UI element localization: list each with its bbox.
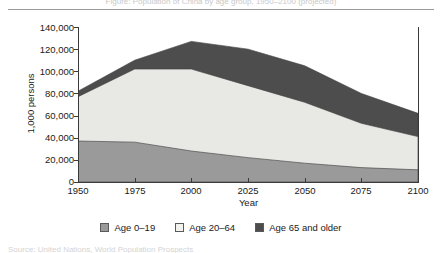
legend-label-age-65-plus: Age 65 and older <box>269 222 341 233</box>
x-tick-mark-1950 <box>78 178 79 182</box>
x-tick-2000: 2000 <box>166 185 216 196</box>
legend-swatch-icon-age-0-19 <box>100 223 109 232</box>
x-tick-2100: 2100 <box>393 185 442 196</box>
legend-label-age-0-19: Age 0–19 <box>114 222 155 233</box>
x-tick-mark-2100 <box>418 178 419 182</box>
legend-item-age-20-64[interactable]: Age 20–64 <box>175 222 235 233</box>
x-tick-mark-2025 <box>248 178 249 182</box>
x-tick-mark-2000 <box>191 178 192 182</box>
x-tick-mark-2075 <box>361 178 362 182</box>
figure-source-note-cropped: Source: United Nations, World Population… <box>8 245 434 253</box>
legend-item-age-65-plus[interactable]: Age 65 and older <box>255 222 341 233</box>
x-tick-2075: 2075 <box>336 185 386 196</box>
x-tick-2050: 2050 <box>280 185 330 196</box>
legend-label-age-20-64: Age 20–64 <box>189 222 235 233</box>
x-tick-2025: 2025 <box>223 185 273 196</box>
x-tick-1975: 1975 <box>110 185 160 196</box>
legend-swatch-icon-age-65-plus <box>255 223 264 232</box>
x-tick-1950: 1950 <box>53 185 103 196</box>
x-tick-mark-1975 <box>135 178 136 182</box>
legend-item-age-0-19[interactable]: Age 0–19 <box>100 222 155 233</box>
x-tick-mark-2050 <box>305 178 306 182</box>
legend-swatch-icon-age-20-64 <box>175 223 184 232</box>
x-axis-title: Year <box>78 197 419 208</box>
chart-legend: Age 0–19 Age 20–64 Age 65 and older <box>0 222 442 233</box>
